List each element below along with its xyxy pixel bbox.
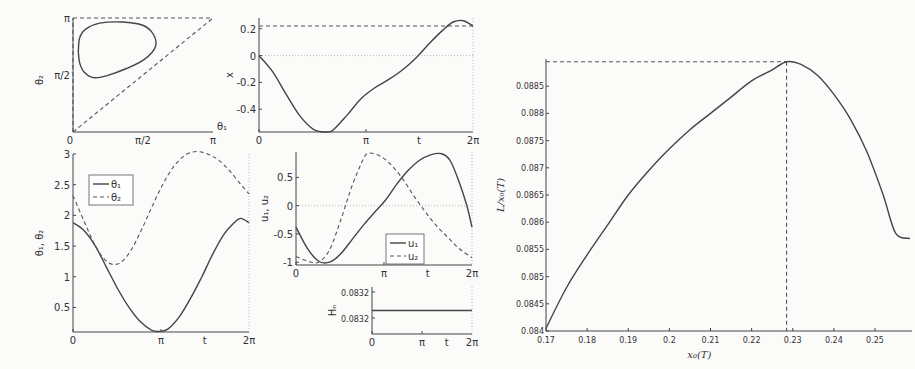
L-over-x0-curve [546, 61, 910, 328]
y-tick-label: -0.5 [273, 229, 293, 240]
y-axis-label: θ₂ [34, 75, 45, 85]
x-tick-label: π [158, 335, 164, 346]
y-tick-label: 0 [250, 51, 256, 62]
x-axis-label: t [445, 337, 449, 348]
phase-portrait-panel: 0π/2ππ/2πθ₁θ₂ [34, 13, 227, 146]
y-tick-label: π/2 [54, 70, 70, 81]
x-tick-label: 0.22 [743, 336, 761, 345]
x-tick-label: 2π [467, 135, 479, 146]
series-xt-line [259, 20, 473, 132]
x-tick-label: 0 [256, 135, 262, 146]
x-tick-label: 0 [70, 335, 76, 346]
y-axis-label: θ₁, θ₂ [34, 230, 45, 257]
L-over-x0-panel: 0.170.180.190.20.210.220.230.240.250.084… [495, 59, 912, 360]
legend-item-label: θ₁ [111, 179, 121, 190]
y-tick-label: 0.0875 [516, 137, 544, 146]
y-tick-label: 0.5 [54, 302, 70, 313]
x-tick-label: π [419, 337, 425, 348]
x-tick-label: 2π [466, 268, 478, 279]
y-tick-label: π [64, 13, 70, 24]
x-t-panel: 0πt2π0.20-0.2-0.4x [224, 18, 479, 146]
y-tick-label: 2 [64, 210, 70, 221]
legend-item-label: u₁ [408, 238, 418, 249]
y-tick-label: 0.0865 [516, 191, 544, 200]
y-tick-label: 1 [64, 272, 70, 283]
x-tick-label: 0.18 [578, 336, 596, 345]
y-tick-label: 0.0885 [516, 82, 544, 91]
x-tick-label: π [210, 135, 216, 146]
x-axis-label: t [203, 335, 207, 346]
x-tick-label: 0 [293, 268, 299, 279]
y-tick-label: 0.0845 [516, 300, 544, 309]
x-tick-label: 0.25 [866, 336, 884, 345]
x-axis-label: t [426, 268, 430, 279]
y-tick-label: 0.084 [521, 327, 544, 336]
y-tick-label: 2.5 [54, 180, 70, 191]
y-axis-label: L/x₀(T) [495, 178, 506, 213]
legend-item-label: θ₂ [111, 192, 121, 203]
x-tick-label: π [363, 135, 369, 146]
x-tick-label: π/2 [135, 135, 151, 146]
y-axis-label: u₁, u₂ [259, 195, 270, 222]
series--line [73, 218, 249, 331]
x-tick-label: 0.2 [663, 336, 676, 345]
y-tick-label: 0.088 [521, 109, 544, 118]
series-u-line [296, 153, 472, 263]
y-tick-label: -0.4 [236, 104, 256, 115]
x-tick-label: 2π [243, 335, 255, 346]
y-axis-label: x [224, 72, 235, 78]
series-u-line [296, 153, 472, 263]
x-tick-label: 2π [466, 337, 478, 348]
x-tick-label: 0 [369, 337, 375, 348]
y-tick-label: 0.0832 [341, 289, 369, 298]
series--line [73, 151, 249, 264]
y-tick-label: 0.5 [277, 172, 293, 183]
x-tick-label: 0.19 [619, 336, 637, 345]
u-t-panel: 0πt2π0.50-0.5-1u₁, u₂u₁u₂ [259, 152, 478, 279]
y-tick-label: 0.2 [240, 24, 256, 35]
hn-t-panel: 0πt2π0.08320.0832Hₙ [327, 287, 478, 348]
y-tick-label: 3 [64, 149, 70, 160]
y-tick-label: 0.085 [521, 273, 544, 282]
boundary-line [73, 18, 213, 132]
y-axis-label: Hₙ [327, 305, 338, 317]
x-tick-label: 0.24 [825, 336, 843, 345]
x-tick-label: 0.23 [784, 336, 802, 345]
x-tick-label: 0 [67, 135, 73, 146]
y-tick-label: 1.5 [54, 241, 70, 252]
figure: 0π/2ππ/2πθ₁θ₂0πt2π0.20-0.2-0.4x0πt2π0.51… [0, 0, 915, 369]
theta-t-panel: 0πt2π0.511.522.53θ₁, θ₂θ₁θ₂ [34, 149, 255, 346]
x-axis-label: x₀(T) [687, 349, 711, 360]
x-tick-label: 0.17 [537, 336, 555, 345]
orbit-curve [78, 22, 156, 78]
y-tick-label: 0.086 [521, 218, 544, 227]
x-axis-label: t [417, 135, 421, 146]
legend-item-label: u₂ [408, 251, 418, 262]
x-tick-label: 0.21 [702, 336, 720, 345]
y-tick-label: 0 [287, 201, 293, 212]
y-tick-label: 0.087 [521, 164, 544, 173]
y-tick-label: 0.0855 [516, 245, 544, 254]
x-tick-label: π [381, 268, 387, 279]
y-tick-label: -0.2 [236, 77, 256, 88]
x-axis-label: θ₁ [217, 121, 227, 132]
y-tick-label: 0.0832 [341, 315, 369, 324]
y-tick-label: -1 [283, 257, 293, 268]
